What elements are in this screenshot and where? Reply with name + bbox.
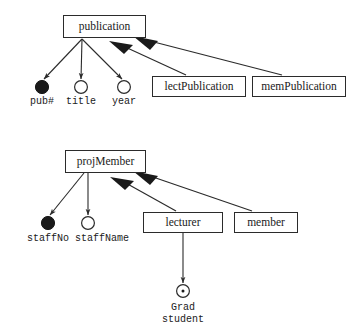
entity-label-publication: publication [79, 20, 131, 32]
entity-label-member: member [247, 216, 285, 228]
link-lectpublication-isa-line [123, 46, 186, 75]
attribute-text-grad-student-line1: Grad [143, 302, 223, 314]
entity-box-proj-member[interactable]: projMember [65, 150, 146, 173]
entity-box-publication[interactable]: publication [63, 15, 146, 38]
arrowhead-lectpublication-isa [109, 41, 133, 54]
attribute-node-year-open-circle-icon [118, 81, 131, 94]
entity-label-proj-member: projMember [77, 155, 134, 167]
link-lecturer-isa-line [124, 182, 176, 211]
arrowhead-mempublication-isa [133, 36, 158, 50]
attribute-text-pub-number: pub# [30, 96, 54, 107]
link-mempublication-isa-line [150, 41, 282, 75]
entity-box-mem-publication[interactable]: memPublication [252, 76, 346, 97]
attribute-text-title: title [66, 96, 96, 107]
attribute-label-staff-name: staffName [57, 234, 147, 245]
entity-label-mem-publication: memPublication [261, 80, 336, 92]
projmember-attribute-links [50, 173, 88, 215]
attribute-label-title: title [61, 97, 101, 108]
publication-attribute-nodes [35, 80, 130, 93]
attribute-node-gradstudent-center-dot-icon [182, 290, 185, 293]
arrowhead-member-isa [133, 171, 158, 185]
attribute-label-pub-number: pub# [22, 97, 62, 108]
link-projmember-staffno [50, 173, 84, 215]
er-diagram-canvas: publication lectPublication memPublicati… [0, 0, 350, 334]
entity-box-lect-publication[interactable]: lectPublication [152, 76, 246, 97]
link-publication-pubnumber [44, 39, 82, 79]
projmember-isa-links [110, 171, 252, 211]
attribute-node-pubnumber-filled-circle-icon [35, 80, 48, 93]
diagram-connector-layer [0, 0, 350, 334]
entity-label-lect-publication: lectPublication [165, 80, 234, 92]
publication-attribute-links [44, 39, 122, 79]
entity-box-member[interactable]: member [234, 212, 298, 233]
attribute-node-staffno-filled-circle-icon [41, 216, 54, 229]
link-member-isa-line [150, 176, 252, 211]
arrowhead-lecturer-isa [110, 177, 134, 190]
entity-label-lecturer: lecturer [165, 216, 200, 228]
attribute-label-grad-student: Grad student [143, 302, 223, 325]
entity-box-lecturer[interactable]: lecturer [143, 212, 223, 233]
projmember-attribute-nodes [41, 216, 94, 229]
publication-isa-links [109, 36, 282, 75]
attribute-text-year: year [112, 96, 136, 107]
attribute-label-year: year [104, 97, 144, 108]
attribute-node-title-open-circle-icon [75, 81, 88, 94]
attribute-node-staffname-open-circle-icon [82, 217, 95, 230]
attribute-text-grad-student-line2: student [143, 314, 223, 326]
attribute-text-staff-name: staffName [75, 233, 129, 244]
lecturer-gradstudent-link [177, 233, 190, 297]
link-publication-title [81, 39, 82, 79]
